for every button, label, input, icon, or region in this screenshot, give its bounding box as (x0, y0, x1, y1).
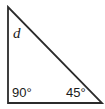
angle-label-bottom-left: 90° (12, 86, 32, 99)
angle-label-bottom-right: 45° (66, 86, 86, 99)
side-label-d: d (13, 26, 21, 41)
right-triangle-figure: d 90° 45° (0, 0, 105, 109)
